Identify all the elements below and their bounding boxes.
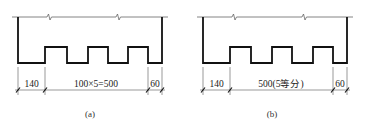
- dimension-right: 60: [150, 79, 160, 89]
- diagram-canvas: 140 100×5=500 60 (a) 140 500(5等分) 60 (b): [0, 0, 365, 125]
- top-break-line: [12, 14, 168, 20]
- dimension-middle: 100×5=500: [74, 79, 118, 89]
- figure-a: 140 100×5=500 60 (a): [12, 14, 168, 119]
- tooth-profile: [203, 17, 347, 63]
- dimension-middle: 500(5等分): [258, 78, 303, 90]
- dimension-left: 140: [209, 79, 224, 89]
- dimension-right: 60: [335, 79, 345, 89]
- figure-caption: (a): [85, 109, 95, 119]
- figure-caption: (b): [267, 109, 278, 119]
- figure-b: 140 500(5等分) 60 (b): [197, 14, 353, 119]
- tooth-profile: [18, 17, 162, 63]
- dimension-left: 140: [24, 79, 39, 89]
- top-break-line: [197, 14, 353, 20]
